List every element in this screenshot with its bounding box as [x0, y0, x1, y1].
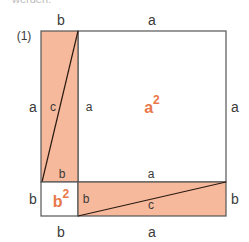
label-vrect-c: c — [50, 100, 56, 114]
figure-number: (1) — [17, 29, 32, 43]
area-a-squared: a2 — [144, 95, 160, 116]
pythagoras-diagram — [0, 0, 249, 242]
label-vrect-a: a — [86, 100, 93, 114]
label-right-b: b — [231, 192, 239, 206]
label-hrect-a: a — [148, 167, 155, 181]
label-bottom-b: b — [57, 225, 65, 239]
label-hrect-b: b — [83, 192, 90, 206]
label-right-a: a — [231, 100, 239, 114]
label-top-b: b — [57, 13, 65, 27]
label-top-a: a — [148, 13, 156, 27]
label-hrect-c: c — [148, 198, 154, 212]
label-bottom-a: a — [148, 225, 156, 239]
label-left-b: b — [29, 192, 37, 206]
area-b-squared: b2 — [53, 189, 69, 210]
label-vrect-b: b — [59, 167, 66, 181]
label-left-a: a — [29, 100, 37, 114]
